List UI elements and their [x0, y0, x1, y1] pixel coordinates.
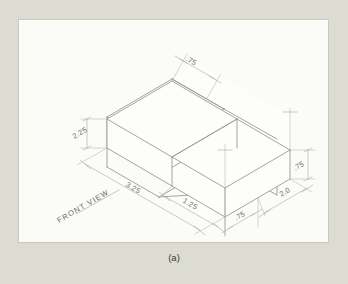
- tick-depth-b: [251, 209, 262, 216]
- dim-label-height-left: 2.25: [71, 125, 89, 141]
- drawing-panel: .75 2.25 .75: [18, 19, 329, 243]
- dim-label-step-height: .75: [292, 159, 306, 172]
- tick-len-a: [80, 160, 91, 169]
- tick-depth-a: [222, 226, 233, 233]
- figure-container: .75 2.25 .75: [0, 0, 348, 284]
- dim-label-overall-length: 3.25: [124, 180, 142, 196]
- front-view-label: FRONT VIEW: [56, 188, 111, 225]
- ext-odepth-a: [258, 198, 265, 216]
- dim-step-height-right: .75: [290, 148, 315, 181]
- tick-odepth-b: [302, 185, 313, 192]
- tick-odepth-a: [259, 210, 270, 217]
- front-view-annotation: FRONT VIEW: [56, 188, 120, 225]
- figure-caption: (a): [0, 252, 348, 263]
- isometric-drawing: .75 2.25 .75: [19, 20, 330, 244]
- ext-len-a: [77, 148, 107, 165]
- tick-notch-b: [213, 223, 224, 232]
- dim-label-overall-depth: 2.0: [278, 185, 292, 198]
- ext-odepth-b: [290, 179, 312, 192]
- dim-height-left: 2.25: [71, 117, 105, 150]
